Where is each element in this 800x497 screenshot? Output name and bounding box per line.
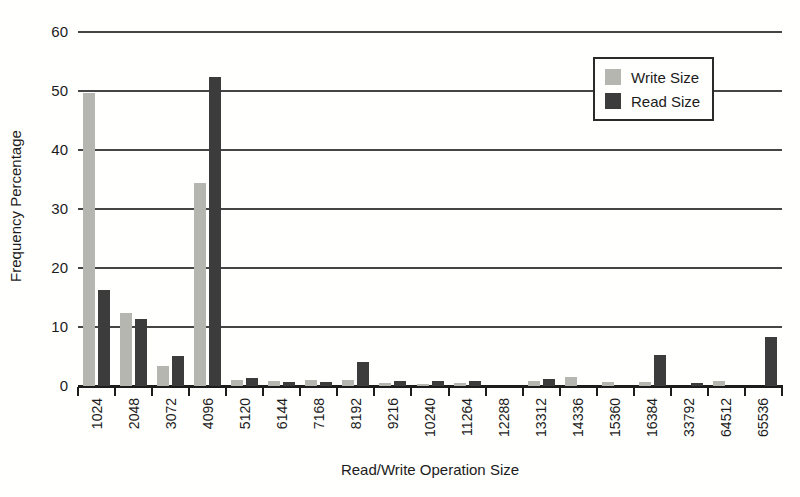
x-tick-mark	[670, 387, 672, 396]
y-tick-label-40: 40	[28, 142, 68, 158]
x-tick-mark	[633, 387, 635, 396]
y-tick-label-10: 10	[28, 319, 68, 335]
x-tick-mark	[77, 387, 79, 396]
bar-read-4096	[209, 77, 221, 386]
bar-chart-figure: Frequency Percentage 0102030405060102420…	[0, 0, 800, 497]
gridline-10	[78, 326, 782, 328]
y-tick-label-20: 20	[28, 260, 68, 276]
bar-write-9216	[379, 383, 391, 386]
x-label-12288: 12288	[496, 398, 512, 458]
bar-read-7168	[320, 382, 332, 386]
y-tick-label-60: 60	[28, 24, 68, 40]
x-label-16384: 16384	[644, 398, 660, 458]
bar-write-4096	[194, 183, 206, 386]
x-tick-mark	[744, 387, 746, 396]
x-label-65536: 65536	[755, 398, 771, 458]
x-label-15360: 15360	[607, 398, 623, 458]
legend: Write Size Read Size	[593, 57, 714, 121]
legend-label-read: Read Size	[631, 93, 700, 110]
bar-read-6144	[283, 382, 295, 386]
x-label-33792: 33792	[681, 398, 697, 458]
bar-read-16384	[654, 355, 666, 386]
x-tick-mark	[522, 387, 524, 396]
gridline-30	[78, 208, 782, 210]
gridline-60	[78, 31, 782, 33]
bar-read-1024	[98, 290, 110, 386]
bar-write-1024	[83, 93, 95, 386]
x-axis-title: Read/Write Operation Size	[78, 461, 782, 478]
x-label-7168: 7168	[311, 398, 327, 458]
bar-write-7168	[305, 380, 317, 386]
x-label-13312: 13312	[533, 398, 549, 458]
x-tick-mark	[336, 387, 338, 396]
x-tick-mark	[485, 387, 487, 396]
bar-read-8192	[357, 362, 369, 386]
write-size-swatch-icon	[605, 69, 621, 85]
bar-read-9216	[394, 381, 406, 386]
x-label-6144: 6144	[274, 398, 290, 458]
x-label-10240: 10240	[422, 398, 438, 458]
bar-read-11264	[469, 381, 481, 386]
read-size-swatch-icon	[605, 93, 621, 109]
x-label-4096: 4096	[200, 398, 216, 458]
bar-read-10240	[432, 381, 444, 386]
bar-write-64512	[713, 381, 725, 386]
bar-read-13312	[543, 379, 555, 386]
bar-read-5120	[246, 378, 258, 386]
x-tick-mark	[188, 387, 190, 396]
bar-write-13312	[528, 381, 540, 386]
x-tick-mark	[299, 387, 301, 396]
y-tick-label-0: 0	[28, 378, 68, 394]
x-tick-mark	[262, 387, 264, 396]
bar-read-33792	[691, 383, 703, 386]
bar-read-65536	[765, 337, 777, 386]
x-label-3072: 3072	[163, 398, 179, 458]
bar-write-2048	[120, 313, 132, 386]
y-tick-label-30: 30	[28, 201, 68, 217]
x-tick-mark	[151, 387, 153, 396]
bar-write-3072	[157, 366, 169, 386]
x-label-8192: 8192	[348, 398, 364, 458]
x-label-1024: 1024	[89, 398, 105, 458]
bar-write-8192	[342, 380, 354, 386]
x-tick-mark	[373, 387, 375, 396]
bar-write-11264	[454, 383, 466, 386]
x-tick-mark	[225, 387, 227, 396]
x-label-11264: 11264	[459, 398, 475, 458]
bar-write-14336	[565, 377, 577, 386]
bar-write-15360	[602, 382, 614, 386]
x-label-64512: 64512	[718, 398, 734, 458]
bar-write-16384	[639, 382, 651, 386]
x-tick-mark	[707, 387, 709, 396]
x-tick-mark	[781, 387, 783, 396]
bar-read-2048	[135, 319, 147, 386]
x-label-14336: 14336	[570, 398, 586, 458]
legend-item-read: Read Size	[605, 93, 702, 110]
legend-item-write: Write Size	[605, 69, 702, 86]
x-tick-mark	[114, 387, 116, 396]
bar-write-6144	[268, 381, 280, 386]
gridline-20	[78, 267, 782, 269]
bar-write-10240	[417, 384, 429, 386]
x-tick-mark	[410, 387, 412, 396]
gridline-40	[78, 149, 782, 151]
x-tick-mark	[448, 387, 450, 396]
x-tick-mark	[596, 387, 598, 396]
x-label-5120: 5120	[237, 398, 253, 458]
legend-label-write: Write Size	[631, 69, 699, 86]
x-tick-mark	[559, 387, 561, 396]
x-label-9216: 9216	[385, 398, 401, 458]
bar-read-3072	[172, 356, 184, 386]
bar-write-5120	[231, 380, 243, 386]
y-tick-label-50: 50	[28, 83, 68, 99]
x-label-2048: 2048	[126, 398, 142, 458]
